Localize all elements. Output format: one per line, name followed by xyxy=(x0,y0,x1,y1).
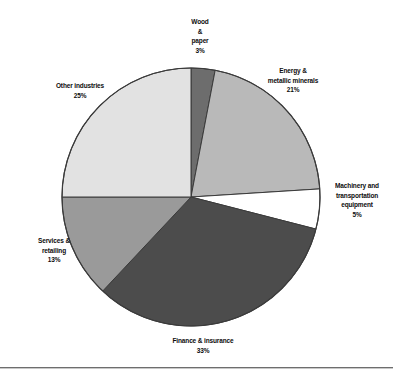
pie-label-energy-metallic-minerals: Energy & metallic minerals 21% xyxy=(254,66,331,95)
pie-label-machinery-transportation-equipment: Machinery and transportation equipment 5… xyxy=(324,181,389,219)
pie-label-services-line2: retailing xyxy=(21,246,86,256)
pie-label-machinery-value: 5% xyxy=(324,210,389,220)
pie-label-other-line1: Other industries xyxy=(39,81,122,91)
pie-label-services-value: 13% xyxy=(21,255,86,265)
pie-label-wood-paper-line2: & xyxy=(181,27,220,37)
pie-label-wood-paper-value: 3% xyxy=(181,46,220,56)
pie-label-wood-paper: Wood & paper 3% xyxy=(181,17,220,55)
pie-chart-figure: Wood & paper 3% Energy & metallic minera… xyxy=(0,0,393,383)
pie-label-services-line1: Services & xyxy=(21,236,86,246)
pie-label-energy-line1: Energy & xyxy=(254,66,331,76)
pie-label-finance-line1: Finance & insurance xyxy=(150,336,256,346)
pie-label-wood-paper-line3: paper xyxy=(181,36,220,46)
pie-label-wood-paper-line1: Wood xyxy=(181,17,220,27)
pie-label-finance-value: 33% xyxy=(150,346,256,356)
pie-label-other-industries: Other industries 25% xyxy=(39,81,122,100)
pie-label-machinery-line3: equipment xyxy=(324,200,389,210)
pie-label-machinery-line2: transportation xyxy=(324,191,389,201)
pie-label-finance-insurance: Finance & insurance 33% xyxy=(150,336,256,355)
pie-label-machinery-line1: Machinery and xyxy=(324,181,389,191)
pie-label-energy-value: 21% xyxy=(254,85,331,95)
pie-label-other-value: 25% xyxy=(39,91,122,101)
pie-label-energy-line2: metallic minerals xyxy=(254,76,331,86)
pie-label-services-retailing: Services & retailing 13% xyxy=(21,236,86,265)
footer-divider-shadow xyxy=(0,368,393,369)
